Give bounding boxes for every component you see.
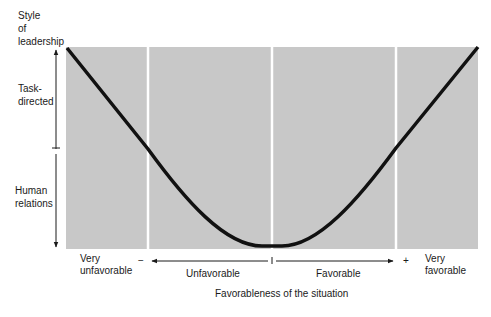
unfavorable-label: Unfavorable — [186, 268, 240, 280]
favorable-label: Favorable — [316, 268, 360, 280]
human-relations-label-1: Human — [15, 185, 47, 197]
leadership-chart — [0, 0, 491, 317]
task-directed-label-2: directed — [18, 96, 54, 108]
plus-marker: + — [403, 255, 409, 267]
y-title-line3: leadership — [18, 36, 64, 48]
y-title-line1: Style — [18, 10, 40, 22]
very-unfavorable-label-1: Very — [80, 253, 100, 265]
x-axis-title: Favorableness of the situation — [215, 288, 348, 300]
very-unfavorable-label-2: unfavorable — [80, 265, 132, 277]
minus-marker: − — [138, 255, 144, 267]
task-directed-label-1: Task- — [18, 83, 42, 95]
y-title-line2: of — [18, 23, 26, 35]
very-favorable-label-1: Very — [425, 253, 445, 265]
very-favorable-label-2: favorable — [425, 265, 466, 277]
human-relations-label-2: relations — [15, 198, 53, 210]
